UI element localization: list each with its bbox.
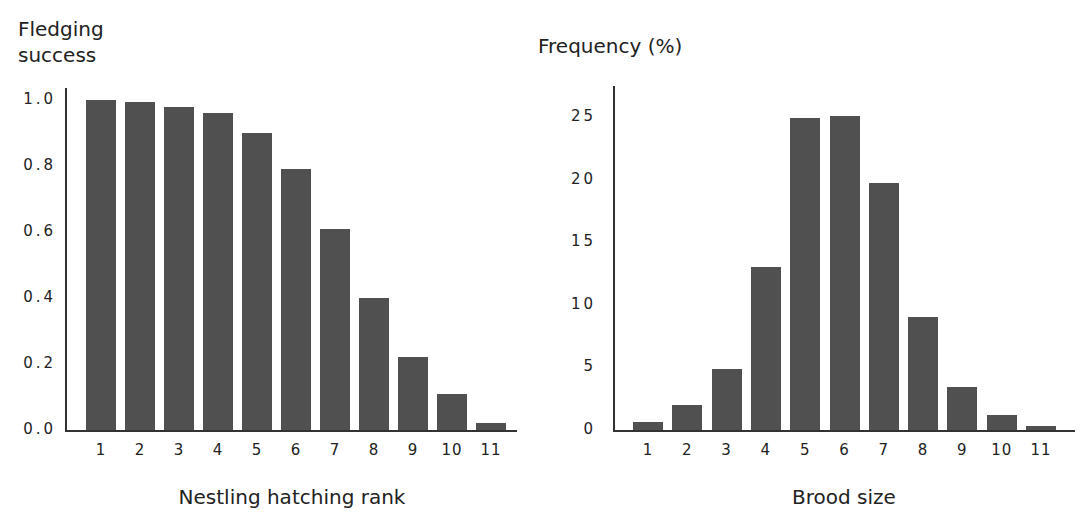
- x-tick-label: 11: [1021, 441, 1061, 459]
- y-axis-label: Frequency (%): [538, 33, 682, 59]
- bar: [869, 183, 899, 430]
- bar: [987, 415, 1017, 430]
- y-tick-label: 5: [536, 357, 596, 375]
- bar: [672, 405, 702, 430]
- bar: [751, 267, 781, 430]
- y-tick-label: 25: [536, 107, 596, 125]
- x-axis-label: Brood size: [613, 485, 1075, 509]
- bar: [712, 369, 742, 430]
- bar: [1026, 426, 1056, 430]
- y-axis-line: [613, 86, 615, 431]
- x-tick-label: 1: [628, 441, 668, 459]
- bar: [947, 387, 977, 430]
- x-tick-label: 3: [707, 441, 747, 459]
- x-tick-label: 5: [785, 441, 825, 459]
- y-tick-label: 15: [536, 232, 596, 250]
- brood-size-frequency-chart: Frequency (%) 2520151050 1234567891011 B…: [0, 0, 1088, 521]
- x-tick-label: 7: [864, 441, 904, 459]
- x-tick-label: 2: [667, 441, 707, 459]
- bar: [790, 118, 820, 430]
- y-tick-label: 20: [536, 170, 596, 188]
- bar: [830, 116, 860, 430]
- x-tick-label: 8: [903, 441, 943, 459]
- y-tick-label: 0: [536, 420, 596, 438]
- bar: [908, 317, 938, 430]
- x-axis-line: [613, 430, 1075, 432]
- x-tick-label: 4: [746, 441, 786, 459]
- x-tick-label: 6: [825, 441, 865, 459]
- y-tick-label: 10: [536, 295, 596, 313]
- x-tick-label: 9: [942, 441, 982, 459]
- bar: [633, 422, 663, 430]
- x-tick-label: 10: [982, 441, 1022, 459]
